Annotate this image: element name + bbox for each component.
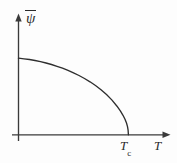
figure-container: ψ Tc T — [0, 0, 177, 163]
critical-temperature-label: Tc — [120, 139, 131, 156]
x-axis-arrow-icon — [163, 132, 171, 138]
order-parameter-curve — [19, 58, 129, 135]
critical-temperature-subscript: c — [127, 148, 131, 158]
y-axis-label-text: ψ — [25, 11, 36, 26]
y-axis-label: ψ — [25, 11, 36, 26]
y-axis-arrow-icon — [15, 14, 21, 22]
x-axis-label: T — [154, 139, 161, 152]
